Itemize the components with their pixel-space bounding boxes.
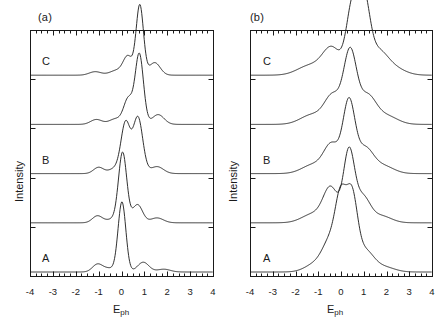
a-curve-label-c: C xyxy=(42,55,50,67)
a-curve-label-a: A xyxy=(42,252,49,264)
a-spectrum-A xyxy=(30,202,213,272)
a-x-tick-label: -4 xyxy=(20,286,40,297)
b-x-tick-label: -2 xyxy=(286,286,306,297)
b-x-tick-label: -3 xyxy=(263,286,283,297)
b-curve-label-c: C xyxy=(263,55,271,67)
a-x-tick-label: -2 xyxy=(66,286,86,297)
b-x-tick-label: -1 xyxy=(308,286,328,297)
b-spectrum-spectrum-4 xyxy=(250,47,432,124)
a-x-tick-label: 2 xyxy=(157,286,177,297)
b-x-tick-label: 1 xyxy=(354,286,374,297)
panel-b-plot xyxy=(221,0,446,329)
a-x-tick-label: -3 xyxy=(43,286,63,297)
b-spectrum-B xyxy=(250,97,432,173)
panel-a: (a) Intensity Eph -4-3-2-101234ABC xyxy=(0,0,228,329)
panel-a-plot xyxy=(0,0,228,329)
a-x-tick-label: 4 xyxy=(203,286,223,297)
figure-canvas: (a) Intensity Eph -4-3-2-101234ABC (b) I… xyxy=(0,0,446,329)
a-x-tick-label: 1 xyxy=(134,286,154,297)
panel-b: (b) Intensity Eph -4-3-2-101234ABC xyxy=(221,0,446,329)
a-curve-label-b: B xyxy=(42,154,49,166)
b-spectrum-spectrum-2 xyxy=(250,147,432,223)
b-x-tick-label: 4 xyxy=(422,286,442,297)
a-spectrum-spectrum-2 xyxy=(30,152,213,223)
a-spectrum-spectrum-4 xyxy=(30,53,213,124)
a-spectrum-C xyxy=(30,4,213,75)
b-curve-label-a: A xyxy=(263,252,270,264)
a-x-tick-label: 3 xyxy=(180,286,200,297)
b-x-tick-label: 3 xyxy=(399,286,419,297)
a-x-tick-label: -1 xyxy=(89,286,109,297)
b-curve-label-b: B xyxy=(263,154,270,166)
b-spectrum-A xyxy=(250,184,432,272)
b-x-tick-label: 2 xyxy=(377,286,397,297)
a-x-tick-label: 0 xyxy=(112,286,132,297)
b-spectrum-C xyxy=(250,0,432,75)
b-x-tick-label: -4 xyxy=(240,286,260,297)
b-axes-frame xyxy=(251,31,433,277)
b-x-tick-label: 0 xyxy=(331,286,351,297)
